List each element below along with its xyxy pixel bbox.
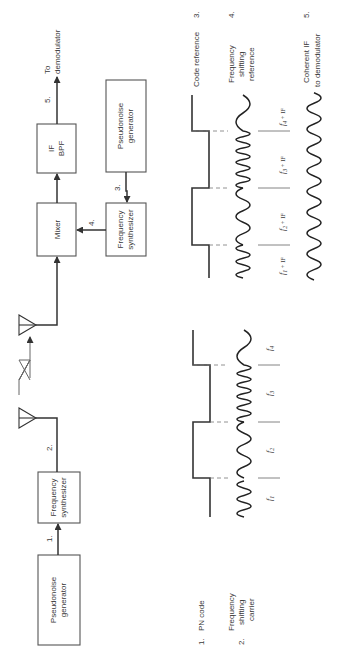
rx-frequency-labels: f1 + IF f2 + IF f3 + IF f4 + IF — [278, 108, 288, 275]
legend-2-text-3: carrier — [247, 598, 256, 621]
rx-pn-generator-box: Pseudonoise generator — [106, 80, 146, 172]
legend-4-text-3: reference — [247, 47, 256, 81]
legend-4-num: 4. — [227, 11, 236, 18]
rx-antenna-icon — [19, 315, 36, 335]
rx-code-reference-waveform — [192, 95, 209, 278]
legend-2-num: 2. — [237, 638, 246, 645]
transmitter-block-diagram: Pseudonoise generator 1. Frequency synth… — [19, 337, 80, 645]
if-bpf-label: IF — [47, 145, 56, 152]
legend-2-text: Frequency — [227, 593, 236, 631]
legend-5-num: 5. — [302, 11, 311, 18]
arrow-3 — [126, 172, 127, 202]
output-label-2: demodulator — [53, 29, 62, 74]
signal-label-5: 5. — [43, 96, 52, 103]
coherent-if-waveform — [307, 93, 321, 280]
legend-1-num: 1. — [197, 638, 206, 645]
tx-legend: 1. PN code 2. Frequency shifting carrier — [197, 593, 256, 645]
tx-antenna-icon — [19, 408, 36, 428]
rx-synth-label-2: synthesizer — [126, 209, 135, 250]
legend-4-text: Frequency — [227, 45, 236, 83]
transmit-waveforms: 1. PN code 2. Frequency shifting carrier… — [193, 330, 280, 645]
mixer-box: Mixer — [37, 203, 76, 256]
svg-text:f1 + IF: f1 + IF — [278, 257, 288, 275]
receive-waveforms: f1 + IF f2 + IF f3 + IF f4 + IF Code ref… — [192, 11, 322, 280]
radio-link-zigzag-icon — [19, 337, 30, 395]
tx-pn-generator-label: Pseudonoise — [49, 576, 58, 623]
rx-frequency-shifting-reference-waveform — [236, 95, 250, 278]
output-label: To — [43, 65, 52, 74]
legend-4-text-2: shifting — [237, 52, 246, 77]
tx-synth-label: Frequency — [49, 479, 58, 517]
legend-2-text-2: shifting — [237, 600, 246, 625]
svg-text:f3: f3 — [265, 391, 275, 396]
tx-frequency-synthesizer-box: Frequency synthesizer — [38, 472, 80, 523]
if-bpf-box: IF BPF — [37, 124, 76, 173]
mixer-label: Mixer — [53, 219, 62, 239]
svg-text:f2: f2 — [265, 448, 275, 453]
svg-text:f3 + IF: f3 + IF — [278, 156, 288, 174]
frequency-hopping-diagram: Pseudonoise generator 1. Frequency synth… — [0, 0, 341, 651]
legend-3-num: 3. — [192, 11, 201, 18]
legend-1-text: PN code — [197, 600, 206, 631]
tx-pn-generator-label-2: generator — [59, 583, 68, 618]
rx-frequency-synthesizer-box: Frequency synthesizer — [106, 203, 146, 256]
signal-label-1: 1. — [45, 535, 54, 542]
receiver-block-diagram: Mixer Frequency synthesizer 4. IF BPF Ps… — [19, 29, 146, 335]
svg-text:f4: f4 — [265, 346, 275, 351]
legend-5-text: Coherent IF — [302, 41, 311, 83]
rx-synth-label: Frequency — [116, 211, 125, 249]
rx-pn-generator-label-2: generator — [126, 109, 135, 144]
tx-synth-label-2: synthesizer — [59, 477, 68, 518]
svg-text:f1: f1 — [265, 496, 275, 501]
rx-antenna-feed — [36, 257, 57, 325]
signal-label-4: 4. — [87, 219, 96, 226]
signal-label-2: 2. — [45, 444, 54, 451]
tx-pn-generator-box: Pseudonoise generator — [38, 555, 80, 645]
legend-5-text-2: to demodulator — [313, 33, 322, 87]
if-bpf-label-2: BPF — [57, 141, 66, 157]
tx-carrier-waveform — [237, 330, 251, 517]
signal-label-3: 3. — [113, 184, 122, 191]
rx-pn-generator-label: Pseudonoise — [116, 102, 125, 149]
tx-pn-code-waveform — [193, 330, 210, 517]
rx-legend: Code reference 3. Frequency shifting ref… — [192, 11, 322, 87]
svg-text:f2 + IF: f2 + IF — [278, 213, 288, 231]
legend-3-text: Code reference — [192, 31, 201, 87]
svg-text:f4 + IF: f4 + IF — [278, 108, 288, 126]
